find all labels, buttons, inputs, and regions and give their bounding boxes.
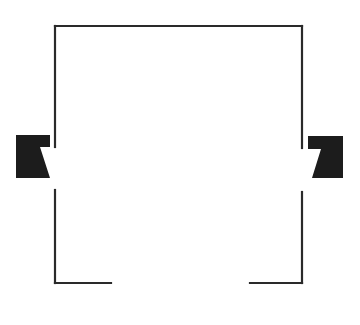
left-speaker-marker: [16, 135, 50, 178]
right-speaker-marker: [308, 136, 343, 178]
floor-plan-diagram: floor-plan: [0, 0, 360, 325]
floor-plan-canvas: [0, 0, 360, 325]
